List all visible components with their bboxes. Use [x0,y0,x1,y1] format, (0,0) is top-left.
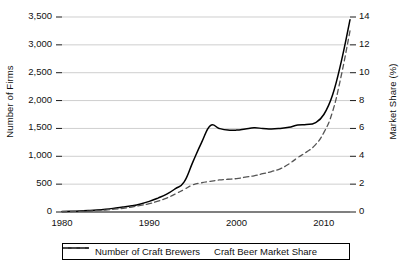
legend-item[interactable]: Craft Beer Market Share [214,246,317,257]
chart-figure: Number of Firms Market Share (%) 05001,0… [0,0,399,271]
legend-item-label: Number of Craft Brewers [95,246,200,257]
legend-dashed-line-icon [63,244,89,252]
legend-item[interactable]: Number of Craft Brewers [95,246,200,257]
series-line-dashed [62,31,350,212]
series-line-solid [62,20,350,212]
plot-area [0,0,399,271]
legend-item-label: Craft Beer Market Share [214,246,317,257]
chart-legend: Number of Craft BrewersCraft Beer Market… [62,243,350,260]
